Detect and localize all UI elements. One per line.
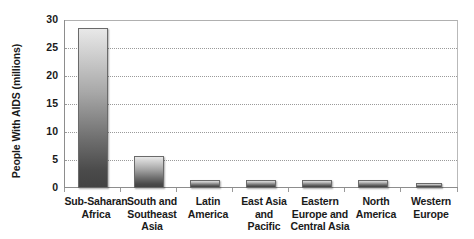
x-tick-5 [344,188,345,192]
y-tick-label-5: 5 [28,153,58,166]
bar-sub-saharan-africa[interactable] [78,28,108,188]
x-label-line: Europe [395,208,467,221]
x-label-line: Central Asia [282,220,358,233]
y-tick-label-10: 10 [28,125,58,138]
x-tick-0 [64,188,65,192]
y-tick-label-30: 30 [28,13,58,26]
y-tick-label-25: 25 [28,41,58,54]
bar-south-and-southeast-asia[interactable] [134,156,164,188]
bar-eastern-europe-and-central-asia[interactable] [302,180,332,188]
x-tick-7 [457,188,458,192]
x-tick-1 [120,188,121,192]
bar-north-america[interactable] [358,180,388,188]
bar-western-europe[interactable] [416,183,442,188]
bars-layer [64,20,458,188]
y-tick-label-20: 20 [28,69,58,82]
x-tick-4 [288,188,289,192]
x-label-line: Asia [116,220,188,233]
x-tick-3 [232,188,233,192]
y-axis-tick-labels: 30 25 20 15 10 5 0 [28,13,58,195]
x-label-western-europe: Western Europe [395,195,467,220]
x-tick-6 [400,188,401,192]
x-axis-category-labels: Sub-Saharan Africa South and Southeast A… [64,195,458,239]
y-axis-title: People With AIDS (millions) [9,25,23,197]
aids-bar-chart: People With AIDS (millions) 30 25 20 15 … [0,0,474,239]
bar-latin-america[interactable] [190,180,220,188]
x-label-line: Western [395,195,467,208]
bar-east-asia-and-pacific[interactable] [246,180,276,188]
y-tick-label-0: 0 [28,181,58,194]
x-tick-2 [176,188,177,192]
y-tick-label-15: 15 [28,97,58,110]
